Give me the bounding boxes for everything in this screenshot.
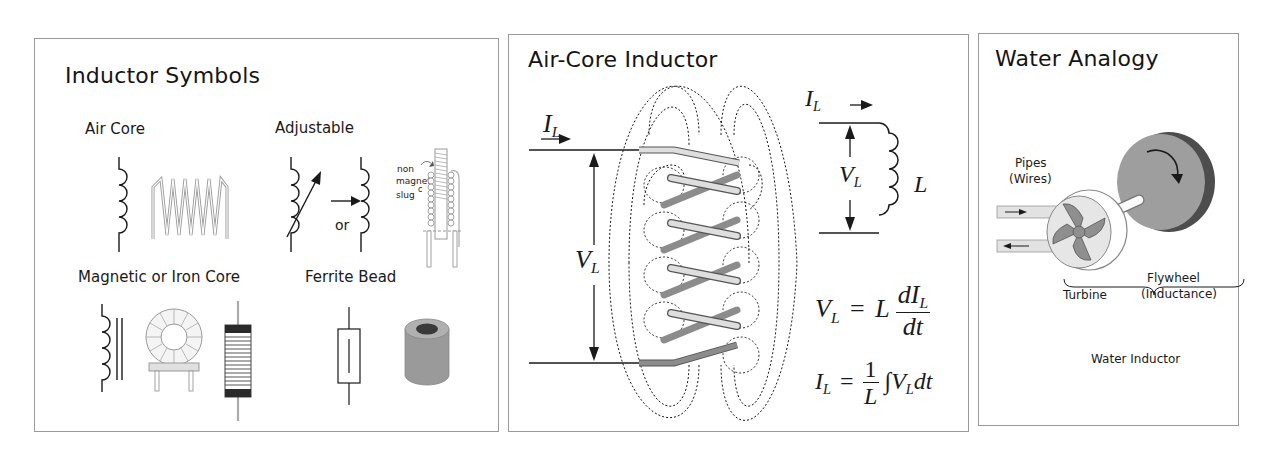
- voltage-label-left: VL: [575, 245, 600, 277]
- panel-water-analogy: Water Analogy Pipes (Wires) Turbine: [978, 33, 1239, 426]
- water-inductor-illustration-icon: [979, 34, 1240, 427]
- toroid-inductor-icon: [143, 307, 205, 399]
- pipes-label: Pipes: [1015, 156, 1047, 170]
- panel-inductor-symbols: Inductor Symbols Air Core Adjustable or …: [34, 38, 499, 432]
- slug-label-line1: non: [397, 164, 414, 174]
- voltage-label-schematic: VL: [839, 161, 862, 191]
- panel-title: Inductor Symbols: [65, 63, 260, 88]
- ferrite-bead-label: Ferrite Bead: [305, 268, 396, 286]
- air-core-symbol-icon: [115, 157, 135, 252]
- water-inductor-label: Water Inductor: [1091, 352, 1180, 366]
- air-core-label: Air Core: [85, 120, 145, 138]
- current-label-left: IL: [543, 109, 560, 141]
- adjustable-label: Adjustable: [275, 119, 354, 137]
- ferrite-bead-symbol-icon: [336, 307, 362, 405]
- pipes-sublabel: (Wires): [1009, 172, 1052, 186]
- adjustable-symbol-tap-icon: [327, 157, 372, 252]
- inductance-label: L: [914, 171, 927, 198]
- iron-core-label: Magnetic or Iron Core: [78, 268, 240, 286]
- iron-core-symbol-icon: [100, 304, 130, 399]
- panel-air-core-inductor: Air-Core Inductor: [508, 34, 969, 432]
- turbine-label: Turbine: [1063, 288, 1107, 302]
- air-core-spring-icon: [151, 177, 231, 242]
- flywheel-sublabel: (Inductance): [1141, 287, 1217, 301]
- equation-voltage: VL = L dILdt: [815, 281, 930, 341]
- ferrite-bead-image-icon: [403, 317, 451, 387]
- slug-inductor-icon: [413, 147, 463, 269]
- flywheel-label: Flywheel: [1147, 271, 1200, 285]
- slug-label-line3: slug: [396, 190, 415, 200]
- rod-inductor-icon: [221, 301, 255, 421]
- current-label-schematic: IL: [805, 85, 821, 115]
- equation-current: IL = 1L ∫VLdt: [815, 357, 933, 410]
